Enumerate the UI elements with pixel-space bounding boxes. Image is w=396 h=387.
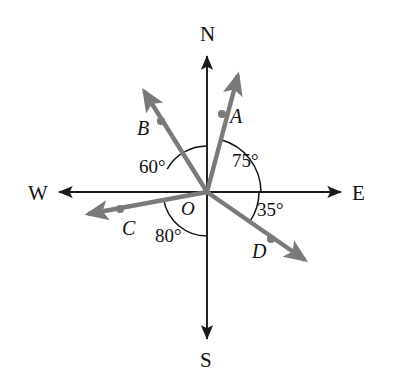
angle-60-label: 60° (139, 157, 166, 176)
compass-label-north: N (200, 24, 215, 45)
ray-label-b: B (137, 118, 149, 138)
ray-label-d: D (252, 241, 266, 261)
point-marker-a (218, 110, 226, 118)
diagram-canvas: 75°60°80°35°ABCDNSEWO (0, 0, 396, 387)
compass-axes (59, 56, 341, 339)
point-marker-b (157, 117, 165, 125)
ray-a (207, 75, 238, 192)
point-marker-c (116, 205, 124, 213)
point-marker-d (267, 235, 275, 243)
angle-75-label: 75° (232, 151, 259, 170)
ray-label-c: C (122, 218, 135, 238)
compass-angle-diagram (0, 0, 396, 387)
ray-label-a: A (230, 106, 242, 126)
compass-label-west: W (28, 183, 48, 204)
compass-label-south: S (200, 350, 212, 371)
angle-80-label: 80° (155, 226, 182, 245)
rays (88, 75, 305, 260)
origin-label: O (181, 199, 195, 218)
angle-35-label: 35° (257, 200, 284, 219)
compass-label-east: E (352, 183, 365, 204)
